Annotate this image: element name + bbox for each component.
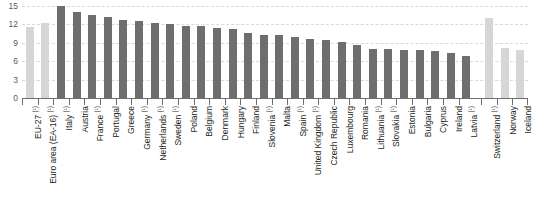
cat-slot: Denmark: [209, 106, 225, 196]
tick-mark: [318, 98, 319, 105]
tick-slot: [147, 98, 163, 105]
bar-slot: [349, 6, 365, 98]
tick-mark: [443, 98, 444, 105]
tick-slot: [381, 98, 397, 105]
tick-mark: [131, 98, 132, 105]
cat-slot: Latvia (¹): [459, 106, 475, 196]
bar-slot: [194, 6, 210, 98]
tick-mark: [116, 98, 117, 105]
bar: [431, 51, 439, 98]
bar-slot: [84, 6, 100, 98]
category-label: Iceland: [524, 106, 533, 133]
tick-mark: [194, 98, 195, 105]
tick-slot: [396, 98, 412, 105]
tick-mark: [427, 98, 428, 105]
bar: [353, 45, 361, 98]
bar-slot: [225, 6, 241, 98]
bar: [384, 49, 392, 98]
bar: [369, 49, 377, 98]
cat-slot: Hungary: [225, 106, 241, 196]
tick-slot: [178, 98, 194, 105]
bar-slot: [334, 6, 350, 98]
bar: [322, 40, 330, 98]
y-axis-tick-label: 12: [9, 20, 18, 29]
tick-slot: [84, 98, 100, 105]
tick-slot: [272, 98, 288, 105]
bar: [151, 23, 159, 98]
x-axis-category-labels: EU-27 (¹)Euro area (EA-16) (¹)Italy (¹)A…: [22, 106, 528, 196]
cat-slot: Ireland: [443, 106, 459, 196]
tick-slot: [209, 98, 225, 105]
tick-mark: [459, 98, 460, 105]
tick-slot: [427, 98, 443, 105]
plot-area: [22, 6, 528, 98]
tick-slot: [22, 98, 38, 105]
cat-slot: Switzerland (¹): [481, 106, 497, 196]
cat-slot: Portugal: [100, 106, 116, 196]
bar: [485, 18, 493, 98]
y-axis-tick-label: 0: [13, 94, 18, 103]
cat-slot: Cyprus: [427, 106, 443, 196]
cat-slot: Romania: [349, 106, 365, 196]
tick-slot: [131, 98, 147, 105]
cat-slot: Bulgaria: [412, 106, 428, 196]
bar: [447, 53, 455, 98]
bar-slot: [459, 6, 475, 98]
tick-mark: [381, 98, 382, 105]
tick-mark: [349, 98, 350, 105]
tick-mark: [287, 98, 288, 105]
bar-chart: 03691215 EU-27 (¹)Euro area (EA-16) (¹)I…: [0, 0, 534, 198]
bar-slot: [209, 6, 225, 98]
tick-slot: [240, 98, 256, 105]
tick-mark: [84, 98, 85, 105]
bar: [260, 35, 268, 98]
tick-slot: [497, 98, 513, 105]
bar-slot: [178, 6, 194, 98]
bar-slot: [162, 6, 178, 98]
tick-mark: [497, 98, 498, 105]
bar: [291, 37, 299, 98]
cat-slot: Czech Republic: [318, 106, 334, 196]
tick-mark: [162, 98, 163, 105]
cat-slot: Estonia: [396, 106, 412, 196]
bar: [501, 48, 509, 98]
tick-slot: [412, 98, 428, 105]
tick-mark: [22, 98, 23, 105]
tick-mark: [527, 98, 528, 105]
bar-slot: [427, 6, 443, 98]
tick-mark: [365, 98, 366, 105]
cat-slot: Austria: [69, 106, 85, 196]
bar: [516, 50, 524, 98]
tick-slot: [69, 98, 85, 105]
bar: [306, 39, 314, 98]
tick-slot: [116, 98, 132, 105]
bar-slot: [497, 6, 513, 98]
bar: [182, 26, 190, 98]
cat-slot: Lithuania (¹): [365, 106, 381, 196]
bar-slot: [116, 6, 132, 98]
cat-slot: Slovakia (¹): [381, 106, 397, 196]
tick-mark: [53, 98, 54, 105]
tick-slot: [287, 98, 303, 105]
cat-slot: Finland: [240, 106, 256, 196]
tick-mark: [69, 98, 70, 105]
bar: [88, 15, 96, 98]
tick-slot: [225, 98, 241, 105]
cat-slot: Iceland: [512, 106, 528, 196]
tick-mark: [512, 98, 513, 105]
bar: [197, 26, 205, 98]
bar: [416, 50, 424, 98]
bar: [400, 50, 408, 98]
tick-slot: [38, 98, 54, 105]
cat-slot: France (¹): [84, 106, 100, 196]
footnote-marker: (¹): [468, 106, 475, 113]
bar: [26, 27, 34, 98]
tick-slot: [162, 98, 178, 105]
bar: [462, 56, 470, 98]
bar: [119, 20, 127, 99]
bar-slot: [287, 6, 303, 98]
bar-slot: [69, 6, 85, 98]
tick-mark: [256, 98, 257, 105]
bar: [41, 23, 49, 98]
bar: [73, 12, 81, 98]
